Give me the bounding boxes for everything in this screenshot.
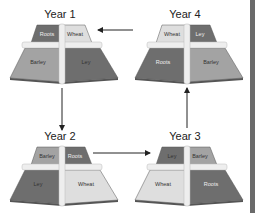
plot-label: Ley xyxy=(196,31,205,37)
plot-label: Ley xyxy=(34,181,43,187)
plot-bottom-right xyxy=(62,48,118,82)
vertical-path xyxy=(184,146,190,206)
vertical-path xyxy=(59,24,65,84)
plot-label: Roots xyxy=(68,153,83,159)
plot-label: Wheat xyxy=(164,31,180,37)
plot-bottom-right xyxy=(62,170,118,204)
plot-bottom-right xyxy=(187,170,243,204)
plot-label: Ley xyxy=(82,59,91,65)
plot-label: Barley xyxy=(192,153,208,159)
plot-bottom-left xyxy=(10,48,62,82)
plot-label: Roots xyxy=(40,31,55,37)
plot-bottom-left xyxy=(10,170,62,204)
plot-label: Barley xyxy=(39,153,55,159)
vertical-path xyxy=(184,24,190,84)
plot-bottom-left xyxy=(135,48,187,82)
field-year-3: Ley Barley Wheat Roots xyxy=(135,146,243,206)
crop-rotation-diagram: Year 1 Year 4 Year 2 Year 3 Roots Wheat … xyxy=(0,0,255,213)
side-strip xyxy=(250,0,255,213)
plot-label: Wheat xyxy=(155,181,171,187)
field-year-4: Wheat Ley Roots Barley xyxy=(135,24,243,84)
field-year-2: Barley Roots Ley Wheat xyxy=(10,146,118,206)
plot-label: Barley xyxy=(30,59,46,65)
plot-label: Barley xyxy=(203,59,219,65)
plot-label: Roots xyxy=(156,59,171,65)
plot-label: Roots xyxy=(204,181,219,187)
plot-label: Wheat xyxy=(78,181,94,187)
diagram-canvas: Roots Wheat Barley Ley Wheat Ley Roots B… xyxy=(0,0,255,213)
plot-bottom-right xyxy=(187,48,243,82)
vertical-path xyxy=(59,146,65,206)
plot-label: Wheat xyxy=(67,31,83,37)
plot-label: Ley xyxy=(168,153,177,159)
field-year-1: Roots Wheat Barley Ley xyxy=(10,24,118,84)
plot-bottom-left xyxy=(135,170,187,204)
